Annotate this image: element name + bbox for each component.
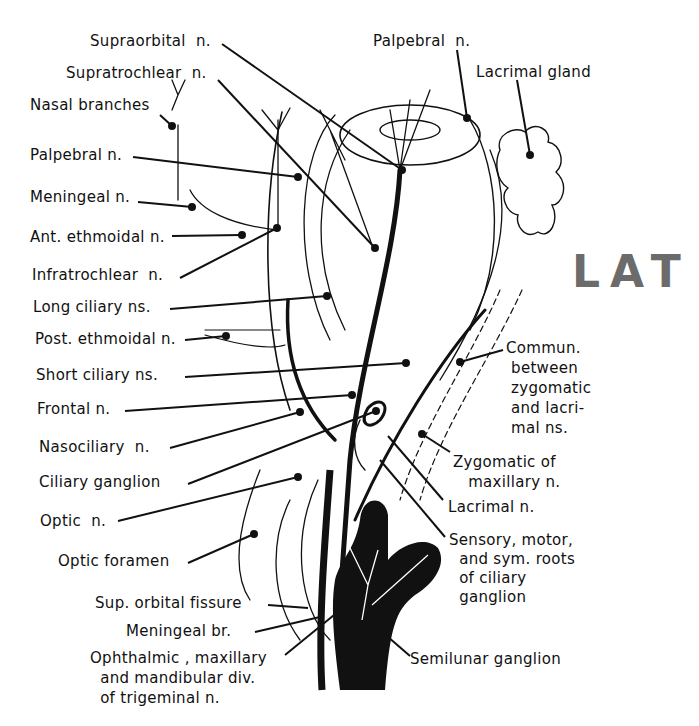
medial-orbit-wall [268,112,290,410]
label-infratrochlear-nerve: Infratrochlear n. [32,266,163,284]
nasal-branches [172,80,185,110]
infratrochlear-branch [262,108,290,228]
label-meningeal-nerve: Meningeal n. [30,188,130,206]
cornea [380,120,440,140]
lacrimal-gland [497,127,564,235]
label-nasal-branches: Nasal branches [30,96,150,114]
label-frontal-nerve: Frontal n. [37,400,110,418]
ophthalmic-trunk [321,470,330,690]
eyeball [340,105,480,165]
label-roots-of-ciliary-ganglion: Sensory, motor, and sym. roots of ciliar… [449,531,575,607]
label-optic-nerve: Optic n. [40,512,106,530]
label-supratrochlear-nerve: Supratrochlear n. [66,64,207,82]
label-palpebral-nerve-left: Palpebral n. [30,146,122,164]
supraorbital-branch [390,90,430,170]
lateral-annotation: LAT [572,246,691,297]
label-ciliary-ganglion: Ciliary ganglion [39,473,161,491]
label-communication-zygomatic-lacrimal: Commun. between zygomatic and lacri- mal… [506,338,591,438]
label-post-ethmoidal-nerve: Post. ethmoidal n. [35,330,176,348]
label-nasociliary-nerve: Nasociliary n. [39,438,150,456]
label-trigeminal-divisions: Ophthalmic , maxillary and mandibular di… [90,648,267,708]
label-ant-ethmoidal-nerve: Ant. ethmoidal n. [30,228,165,246]
label-long-ciliary-nerves: Long ciliary ns. [33,298,151,316]
label-semilunar-ganglion: Semilunar ganglion [410,650,561,668]
label-meningeal-branch: Meningeal br. [126,622,231,640]
label-short-ciliary-nerves: Short ciliary ns. [36,366,158,384]
label-lacrimal-gland: Lacrimal gland [476,63,591,81]
label-zygomatic-of-maxillary: Zygomatic of maxillary n. [453,452,560,492]
label-palpebral-nerve-right: Palpebral n. [373,32,470,50]
label-sup-orbital-fissure: Sup. orbital fissure [95,594,242,612]
label-supraorbital-nerve: Supraorbital n. [90,32,211,50]
label-lacrimal-nerve: Lacrimal n. [448,498,534,516]
label-optic-foramen: Optic foramen [58,552,169,570]
